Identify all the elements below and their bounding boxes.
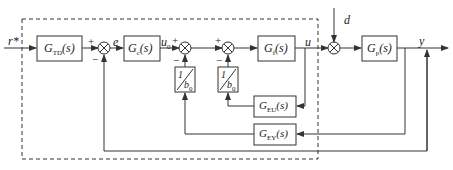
label-gp: Gp(s) [367, 42, 392, 57]
sign-plus-2: + [172, 35, 178, 46]
summing-junction-3 [222, 42, 234, 54]
label-reference: r* [8, 35, 19, 47]
sign-plus-3: + [215, 35, 221, 46]
summing-junction-1 [98, 42, 110, 54]
label-geu: GEU(s) [259, 100, 288, 114]
label-u: u [305, 36, 311, 48]
label-output: y [419, 35, 424, 47]
label-gc: Gc(s) [128, 42, 152, 57]
label-error: e [113, 36, 118, 48]
summing-junction-4 [328, 42, 340, 54]
sign-minus-3: − [216, 55, 222, 66]
label-inv-b0-1: 1b0 [175, 67, 195, 92]
label-u0: u0 [161, 36, 171, 51]
label-disturbance: d [344, 14, 350, 26]
label-gf: Gf(s) [264, 42, 288, 57]
label-inv-b0-2: 1b0 [218, 67, 238, 92]
label-gtd: GTD(s) [44, 42, 75, 57]
sign-minus-2: − [173, 55, 179, 66]
summing-junction-2 [179, 42, 191, 54]
sign-plus-1: + [88, 36, 94, 47]
label-gey: GEY(s) [259, 128, 288, 142]
sign-minus-1: − [92, 54, 98, 65]
